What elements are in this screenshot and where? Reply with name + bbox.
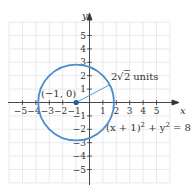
equation-label: (x + 1)2 + y2 = 8 <box>106 121 191 133</box>
center-label: (−1, 0) <box>41 88 76 99</box>
y-axis-label: y <box>81 10 88 21</box>
y-tick-label: −4 <box>73 151 87 161</box>
y-axis-arrow-icon <box>87 13 92 20</box>
x-tick-labels: −5 −4 −3 −2 −1 1 2 3 4 5 <box>14 106 160 116</box>
y-tick-label: −1 <box>73 111 86 121</box>
y-tick-label: −2 <box>73 124 86 134</box>
eq-part-a: (x + 1) <box>106 122 141 133</box>
axes <box>8 13 179 185</box>
x-tick-label: 5 <box>154 106 160 116</box>
x-tick-label: −3 <box>41 106 55 116</box>
x-axis-arrow-icon <box>172 100 179 105</box>
x-tick-label: −5 <box>14 106 28 116</box>
eq-part-b: + y <box>145 122 166 133</box>
circle-diagram: −5 −4 −3 −2 −1 1 2 3 4 5 5 4 3 2 1 −1 −2… <box>0 0 194 194</box>
y-tick-label: 2 <box>80 71 86 81</box>
x-tick-label: 4 <box>140 106 146 116</box>
center-point <box>74 100 79 105</box>
y-tick-label: 1 <box>80 84 86 94</box>
y-tick-label: −5 <box>73 165 87 175</box>
y-tick-label: 4 <box>80 44 86 54</box>
radius-label-units: units <box>130 71 158 82</box>
sqrt-icon: √ <box>117 71 124 82</box>
radius-label: 2 √ 2 units <box>111 71 158 82</box>
y-tick-label: 5 <box>80 31 86 41</box>
eq-rhs: = 8 <box>170 122 191 133</box>
x-tick-label: 1 <box>100 106 106 116</box>
x-axis-label: x <box>180 105 186 116</box>
x-tick-label: 3 <box>127 106 133 116</box>
x-tick-label: −2 <box>54 106 67 116</box>
